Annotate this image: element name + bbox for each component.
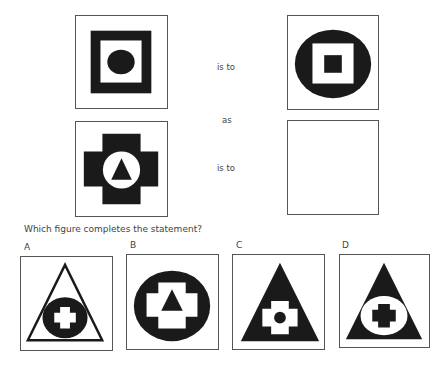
triangle-outline-circle-cross-icon xyxy=(21,257,112,350)
cross-circle-triangle-icon xyxy=(76,122,167,216)
connector-as: as xyxy=(222,115,232,125)
connector-is-to-1: is to xyxy=(217,62,235,72)
circle-square-square-icon xyxy=(288,16,378,109)
triangle-circle-cross-icon xyxy=(340,255,429,347)
option-a-label: A xyxy=(24,242,30,252)
option-a[interactable] xyxy=(20,256,113,351)
analogy-figure-4-empty xyxy=(287,120,379,215)
option-b[interactable] xyxy=(126,254,219,350)
option-c[interactable] xyxy=(232,254,325,350)
option-c-label: C xyxy=(236,240,242,250)
question-text: Which figure completes the statement? xyxy=(24,224,202,234)
analogy-figure-1 xyxy=(75,15,168,109)
option-d[interactable] xyxy=(339,254,430,348)
connector-is-to-2: is to xyxy=(217,163,235,173)
circle-cross-triangle-icon xyxy=(127,255,218,349)
option-b-label: B xyxy=(130,240,136,250)
option-d-label: D xyxy=(342,240,349,250)
triangle-cross-circle-icon xyxy=(233,255,324,349)
square-frame-circle-icon xyxy=(76,16,167,108)
analogy-figure-3 xyxy=(75,121,168,217)
analogy-figure-2 xyxy=(287,15,379,110)
